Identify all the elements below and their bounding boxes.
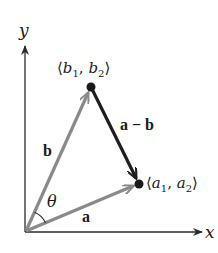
point-b-label: ⟨b1, b2⟩: [57, 61, 110, 79]
point-a-label: ⟨a1, a2⟩: [146, 176, 198, 194]
angle-theta-label: θ: [47, 194, 57, 210]
vector-a-minus-b: [92, 89, 136, 178]
point-b: [87, 83, 96, 92]
x-axis-label: x: [205, 224, 215, 241]
diagram-graphics: [0, 0, 218, 253]
label-a: a: [82, 209, 90, 225]
point-a: [135, 180, 144, 189]
vector-difference-diagram: y x ⟨b1, b2⟩ ⟨a1, a2⟩ a − b b a θ: [0, 0, 218, 253]
label-b: b: [43, 143, 52, 159]
label-a-minus-b: a − b: [120, 117, 154, 133]
y-axis-label: y: [19, 22, 29, 39]
angle-arc: [35, 212, 46, 223]
